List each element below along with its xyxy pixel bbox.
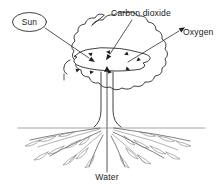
sun-label: Sun: [22, 17, 38, 27]
carbon-dioxide-label: Carbon dioxide: [111, 8, 171, 18]
oxygen-label: Oxygen: [183, 27, 214, 37]
tree-roots-left: [25, 128, 103, 168]
water-label: Water: [95, 172, 118, 182]
photosynthesis-diagram: Sun Carbon dioxide Oxygen: [0, 0, 224, 188]
diagram-canvas: Sun Carbon dioxide Oxygen: [0, 0, 224, 188]
sun-label-group: Sun: [13, 13, 47, 32]
carbon-dioxide-label-group: Carbon dioxide: [111, 8, 171, 18]
water-label-group: Water: [95, 172, 118, 182]
tree-roots-right: [111, 128, 191, 168]
oxygen-label-group: Oxygen: [183, 27, 214, 37]
